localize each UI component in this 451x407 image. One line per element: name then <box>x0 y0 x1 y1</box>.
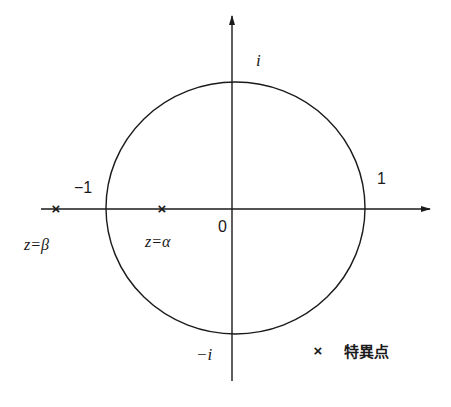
legend-label: 特異点 <box>344 343 389 361</box>
legend-marker-icon: × <box>314 342 323 359</box>
alpha-marker-icon: × <box>158 200 167 217</box>
beta-label: z=β <box>23 236 49 254</box>
imag-pos-label: i <box>256 51 261 70</box>
unit-circle <box>106 82 365 334</box>
complex-plane-diagram: i −1 1 0 −i × × z=β z=α × 特異点 <box>0 0 451 407</box>
real-pos-label: 1 <box>377 170 386 187</box>
alpha-label: z=α <box>144 233 171 250</box>
real-neg-label: −1 <box>74 179 92 196</box>
imag-neg-label: −i <box>196 345 212 364</box>
origin-label: 0 <box>218 218 227 235</box>
beta-marker-icon: × <box>52 200 61 217</box>
